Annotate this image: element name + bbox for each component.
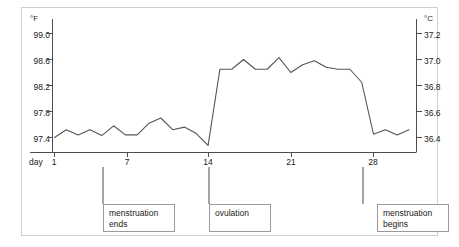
callout-menstruation-begins-line-2: begins [383,219,444,230]
chart-screenshot: °F °C 99.0 98.6 98.2 97.8 97.4 37.2 37.0… [0,0,459,247]
annotation-leader-lines [103,167,363,204]
callout-menstruation-begins-line-1: menstruation [383,208,444,219]
callout-menstruation-ends: menstruation ends [103,204,175,232]
basal-body-temperature-chart: °F °C 99.0 98.6 98.2 97.8 97.4 37.2 37.0… [0,0,459,247]
x-axis-ticks [55,153,374,158]
left-axis-ticks [47,34,53,138]
callout-menstruation-ends-line-1: menstruation [109,208,170,219]
callout-menstruation-ends-line-2: ends [109,219,170,230]
callout-ovulation-line-1: ovulation [215,208,266,219]
right-axis-ticks [417,34,423,138]
axis-lines [30,19,417,153]
callout-ovulation: ovulation [209,204,271,232]
callout-menstruation-begins: menstruation begins [377,204,449,232]
temperature-line [55,58,409,146]
